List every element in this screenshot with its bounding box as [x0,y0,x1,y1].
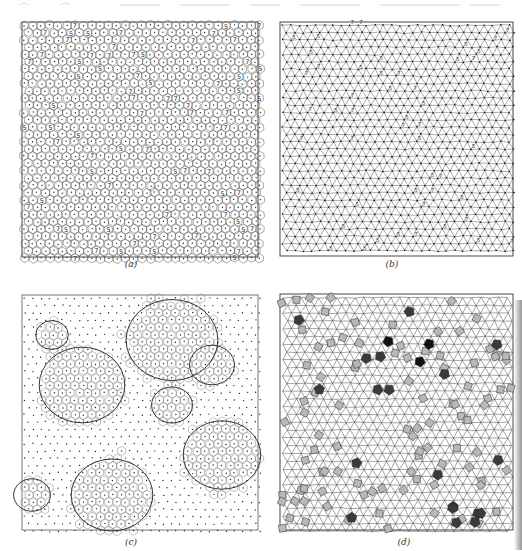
svg-text:5: 5 [90,168,94,176]
svg-text:5: 5 [309,49,313,55]
svg-text:5: 5 [334,107,338,113]
svg-text:5: 5 [464,41,468,47]
svg-text:5: 5 [359,64,363,70]
svg-text:7: 7 [27,58,31,66]
svg-text:7: 7 [107,52,111,60]
svg-text:5: 5 [329,245,333,251]
caption-a: (a) [125,259,137,269]
svg-text:7: 7 [224,124,228,132]
svg-text:5: 5 [51,102,55,110]
svg-text:7: 7 [56,138,60,146]
svg-text:7: 7 [351,135,355,141]
svg-text:5: 5 [477,48,481,54]
svg-text:7: 7 [359,19,363,25]
svg-text:7: 7 [418,121,422,127]
svg-text:7: 7 [152,233,156,241]
svg-text:7: 7 [145,146,149,154]
svg-text:7: 7 [237,189,241,197]
svg-text:5: 5 [148,79,152,87]
svg-text:7: 7 [439,173,443,179]
svg-text:5: 5 [76,73,80,81]
svg-text:7: 7 [165,211,169,219]
svg-text:7: 7 [174,95,178,103]
svg-text:5: 5 [431,172,435,178]
svg-text:7: 7 [90,52,94,60]
svg-text:5: 5 [258,65,262,73]
svg-text:7: 7 [119,29,123,37]
svg-text:7: 7 [309,106,313,112]
svg-text:7: 7 [351,19,355,25]
svg-text:5: 5 [405,114,409,120]
svg-text:7: 7 [351,92,355,98]
svg-text:7: 7 [216,80,220,88]
svg-text:7: 7 [43,29,47,37]
svg-text:5: 5 [232,254,236,262]
svg-text:7: 7 [494,35,498,41]
svg-text:5: 5 [241,226,245,234]
svg-text:7: 7 [132,51,136,59]
svg-text:7: 7 [207,168,211,176]
svg-text:7: 7 [397,70,401,76]
svg-text:7: 7 [300,135,304,141]
svg-text:5: 5 [23,124,27,132]
svg-text:7: 7 [132,240,136,248]
svg-text:5: 5 [48,124,52,132]
cluster-diagram [22,295,258,530]
svg-text:5: 5 [342,223,346,229]
svg-text:7: 7 [223,211,227,219]
svg-text:5: 5 [236,218,240,226]
svg-text:5: 5 [379,55,383,61]
svg-text:5: 5 [98,65,102,73]
svg-text:7: 7 [190,109,194,117]
svg-text:7: 7 [111,43,115,51]
svg-text:7: 7 [237,248,241,256]
svg-text:5: 5 [119,145,123,153]
svg-text:5: 5 [356,201,360,207]
svg-text:5: 5 [40,197,44,205]
svg-text:5: 5 [379,70,383,76]
page-edge-shadow [514,300,522,550]
svg-text:7: 7 [65,36,69,44]
svg-text:7: 7 [211,30,215,38]
voronoi-diagram: 7577557777777777575755575577577755777755… [22,22,258,257]
svg-text:7: 7 [422,201,426,207]
svg-text:7: 7 [317,63,321,69]
svg-text:5: 5 [86,30,90,38]
svg-text:5: 5 [363,245,367,251]
svg-text:5: 5 [69,30,73,38]
svg-text:5: 5 [418,135,422,141]
svg-text:5: 5 [237,73,241,81]
svg-text:7: 7 [136,72,140,80]
svg-text:5: 5 [292,34,296,40]
svg-text:7: 7 [401,122,405,128]
svg-text:5: 5 [173,168,177,176]
svg-text:7: 7 [431,187,435,193]
svg-text:5: 5 [397,231,401,237]
panel-b-delaunay: 7775575555577575757757575777755575575577… [280,22,513,256]
svg-text:5: 5 [119,248,123,256]
svg-text:5: 5 [317,33,321,39]
svg-text:5: 5 [152,248,156,256]
svg-text:7: 7 [233,36,237,44]
svg-text:7: 7 [305,70,309,76]
panel-c-clusters [22,295,258,530]
triangulation-diagram: 7775575555577575757757575777755575575577… [280,22,513,256]
svg-text:5: 5 [389,85,393,91]
svg-text:5: 5 [477,237,481,243]
caption-d: (d) [398,537,411,547]
svg-text:5: 5 [237,87,241,95]
svg-text:7: 7 [414,231,418,237]
svg-text:5: 5 [376,237,380,243]
svg-text:7: 7 [166,95,170,103]
svg-text:5: 5 [472,143,476,149]
svg-text:7: 7 [94,247,98,255]
svg-text:7: 7 [26,203,30,211]
svg-text:7: 7 [183,167,187,175]
caption-b: (b) [386,259,399,269]
svg-text:5: 5 [456,56,460,62]
svg-text:7: 7 [351,107,355,113]
svg-text:7: 7 [73,22,77,30]
svg-text:7: 7 [510,238,514,244]
svg-text:5: 5 [460,194,464,200]
svg-text:7: 7 [140,110,144,118]
